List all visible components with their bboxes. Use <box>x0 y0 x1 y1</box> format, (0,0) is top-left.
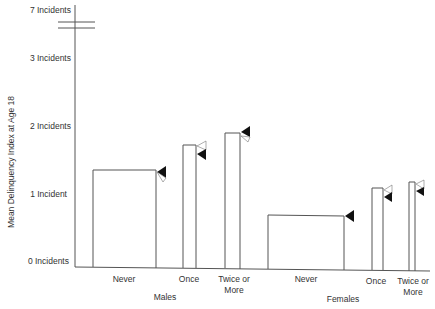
x-category-label: Never <box>113 274 136 284</box>
bar-males-never <box>93 166 166 268</box>
bar-females-never <box>268 210 354 270</box>
x-category-label: Once <box>179 274 200 284</box>
flag-marker-open <box>384 185 392 194</box>
bar-males-twice <box>225 126 250 269</box>
x-category-label: More <box>403 287 423 297</box>
flag-marker-open <box>241 136 250 142</box>
flag-marker-filled <box>416 187 424 196</box>
x-group-label: Females <box>327 294 360 304</box>
flag-marker-open <box>197 141 206 150</box>
x-category-label: More <box>224 285 244 295</box>
x-category-label: Twice or <box>218 274 250 284</box>
flag-marker-filled <box>384 192 392 202</box>
x-category-label: Never <box>295 274 318 284</box>
y-tick-label: 0 Incidents <box>28 256 69 266</box>
x-category-label: Twice or <box>397 276 429 286</box>
y-tick-label: 2 Incidents <box>30 121 71 131</box>
bar-males-once <box>183 141 206 268</box>
x-group-label: Males <box>154 292 177 302</box>
delinquency-chart: 7 Incidents 3 Incidents 2 Incidents 1 In… <box>0 0 435 309</box>
y-tick-label: 3 Incidents <box>30 53 71 63</box>
flag-marker-filled <box>241 126 250 137</box>
flag-marker-filled <box>345 210 354 222</box>
bar-females-twice <box>409 180 424 271</box>
x-category-label: Once <box>366 276 387 286</box>
flag-marker-filled <box>197 149 206 160</box>
y-tick-label: 7 Incidents <box>30 5 71 15</box>
bar-females-once <box>372 185 392 270</box>
x-axis-baseline <box>75 267 430 271</box>
y-axis-title: Mean Delinquency Index at Age 18 <box>6 96 16 228</box>
y-tick-label: 1 Incident <box>30 189 67 199</box>
